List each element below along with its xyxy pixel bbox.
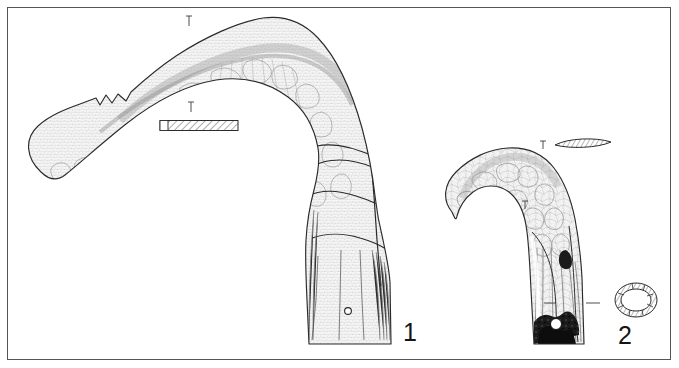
section-marker-figure-1-top: [186, 16, 192, 26]
socket-cross-section-2: [615, 283, 657, 317]
figure-number-2: 2: [618, 323, 632, 348]
section-marker-figure-1-bend: [188, 102, 194, 112]
artifact-drawing-layer: [0, 0, 679, 368]
blade-cross-section-2: [555, 139, 611, 148]
section-marker-figure-2-top: [540, 141, 546, 149]
rivet-hole-figure-1: [345, 308, 352, 315]
figure-number-1: 1: [403, 320, 417, 345]
blade-cross-section-1: [160, 121, 238, 131]
illustration-plate: 1 2: [0, 0, 679, 368]
